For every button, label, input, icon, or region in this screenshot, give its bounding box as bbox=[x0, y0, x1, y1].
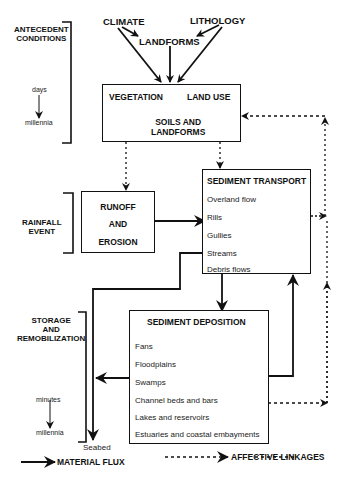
deposition-item: Estuaries and coastal embayments bbox=[135, 430, 260, 439]
transport-item: Streams bbox=[207, 249, 237, 258]
rainfall-event-label: RAINFALL EVENT bbox=[22, 218, 62, 236]
transport-item: Gullies bbox=[207, 231, 231, 240]
lithology-node: LITHOLOGY bbox=[190, 15, 245, 26]
antecedent-scale-to: millennia bbox=[25, 119, 53, 127]
sediment-transport-box: SEDIMENT TRANSPORT Overland flow Rills G… bbox=[202, 169, 311, 274]
landscape-box: VEGETATION LAND USE SOILS AND LANDFORMS bbox=[102, 84, 241, 142]
seabed-label: Seabed bbox=[83, 444, 111, 452]
climate-node: CLIMATE bbox=[103, 16, 145, 27]
legend-affective-linkages: AFFECTIVE LINKAGES bbox=[231, 453, 325, 462]
deposition-title: SEDIMENT DEPOSITION bbox=[147, 317, 246, 327]
transport-item: Debris flows bbox=[207, 265, 251, 274]
antecedent-conditions-label: ANTECEDENT CONDITIONS bbox=[14, 25, 69, 43]
storage-scale-from: minutes bbox=[36, 396, 61, 404]
deposition-item: Fans bbox=[135, 342, 153, 351]
soils-landforms-node: SOILS AND LANDFORMS bbox=[151, 117, 205, 137]
sediment-system-diagram: ANTECEDENT CONDITIONS days millennia RAI… bbox=[0, 0, 346, 480]
transport-item: Overland flow bbox=[207, 195, 256, 204]
legend-material-flux: MATERIAL FLUX bbox=[57, 458, 125, 467]
runoff-erosion-box: RUNOFF AND EROSION bbox=[81, 191, 155, 253]
sediment-deposition-box: SEDIMENT DEPOSITION Fans Floodplains Swa… bbox=[129, 310, 269, 444]
vegetation-node: VEGETATION bbox=[109, 92, 163, 102]
deposition-item: Swamps bbox=[135, 378, 166, 387]
storage-scale-to: millennia bbox=[36, 429, 64, 437]
deposition-item: Floodplains bbox=[135, 360, 176, 369]
deposition-item: Channel beds and bars bbox=[135, 396, 218, 405]
transport-item: Rills bbox=[207, 213, 222, 222]
deposition-item: Lakes and reservoirs bbox=[135, 413, 209, 422]
storage-remobilization-label: STORAGE AND REMOBILIZATION bbox=[17, 316, 85, 343]
landforms-node: LANDFORMS bbox=[139, 36, 200, 47]
transport-title: SEDIMENT TRANSPORT bbox=[207, 176, 306, 186]
antecedent-scale-from: days bbox=[32, 86, 47, 94]
land-use-node: LAND USE bbox=[187, 92, 230, 102]
